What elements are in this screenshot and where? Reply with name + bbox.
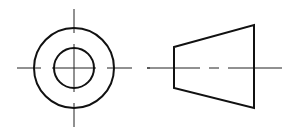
technical-drawing (0, 0, 298, 132)
